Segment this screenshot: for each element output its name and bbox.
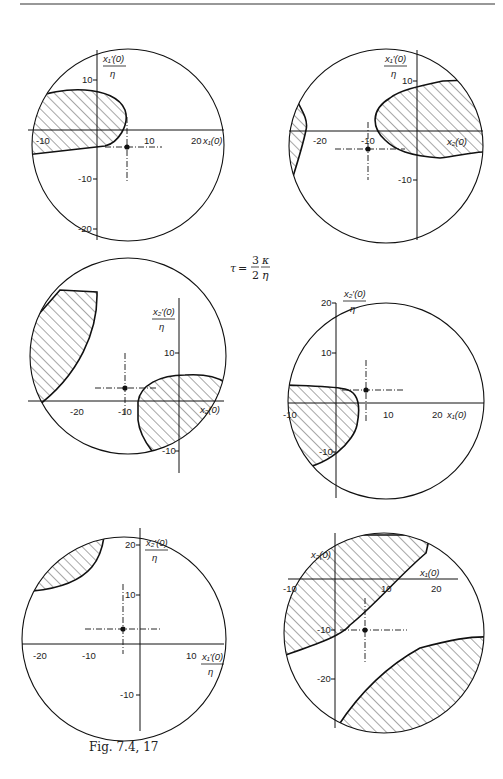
y-tick: -10 bbox=[317, 624, 331, 635]
x-tick: -10 bbox=[36, 135, 50, 146]
y-tick: -10 bbox=[120, 689, 134, 700]
y-tick: -10 bbox=[398, 174, 412, 185]
hatched-region-right bbox=[138, 375, 226, 473]
y-tick: -10 bbox=[78, 173, 92, 184]
svg-text:=: = bbox=[238, 262, 247, 275]
x-tick: -10 bbox=[283, 583, 297, 594]
svg-text:κ: κ bbox=[261, 254, 270, 267]
svg-text:η: η bbox=[159, 321, 164, 332]
y-axis-label: x₁′(0) bbox=[384, 53, 406, 64]
y-axis-label: x₂′(0) bbox=[145, 537, 168, 548]
y-tick: 20 bbox=[321, 297, 332, 308]
y-tick: 10 bbox=[321, 347, 332, 358]
svg-text:η: η bbox=[152, 552, 157, 563]
figure-canvas: -10 10 20 x₁(0) 10 -10 -20 x₁′(0) η -20 … bbox=[0, 0, 503, 779]
x-tick: -10 bbox=[82, 650, 96, 661]
y-tick: -10 bbox=[319, 446, 333, 457]
x-tick: 10 bbox=[383, 409, 394, 420]
x-tick: 20 bbox=[431, 583, 442, 594]
svg-text:η: η bbox=[350, 303, 355, 314]
panel-middle-right: -10 10 20 x₁(0) 20 10 -10 x₂′(0) η bbox=[283, 288, 484, 499]
x-tick: 20 bbox=[432, 409, 443, 420]
x-tick: -20 bbox=[33, 650, 47, 661]
y-tick: 20 bbox=[125, 539, 136, 550]
hatched-region bbox=[285, 385, 359, 470]
svg-text:η: η bbox=[110, 68, 115, 79]
y-tick: 10 bbox=[125, 589, 136, 600]
panel-top-left: -10 10 20 x₁(0) 10 -10 -20 x₁′(0) η bbox=[25, 49, 224, 241]
y-axis-label: x₁′(0) bbox=[102, 53, 124, 64]
y-tick: -20 bbox=[317, 673, 331, 684]
panel-bottom-right: -10 10 20 x₁(0) x₂(0) -10 -20 bbox=[268, 533, 490, 740]
panel-bottom-left: -20 -10 10 x₁′(0) η 20 10 -10 x₂′(0) η bbox=[20, 525, 226, 741]
svg-text:η: η bbox=[208, 666, 213, 677]
svg-text:3: 3 bbox=[252, 254, 259, 267]
hatched-region-upper bbox=[268, 535, 430, 661]
x-tick: 10 bbox=[186, 650, 197, 661]
svg-text:2: 2 bbox=[252, 269, 259, 282]
y-axis-label: x₂(0) bbox=[310, 549, 331, 560]
panel-middle-left: -20 -10 x₂(0) 10 -10 x₂′(0) η bbox=[25, 258, 226, 473]
x-axis-label: x₁′(0) bbox=[201, 651, 223, 662]
tau-parameter-label: τ = 3 2 κ η bbox=[230, 254, 270, 282]
y-tick: -20 bbox=[78, 223, 92, 234]
hatched-region-right bbox=[375, 80, 490, 158]
y-tick: 10 bbox=[164, 347, 175, 358]
y-tick: 10 bbox=[402, 75, 413, 86]
x-axis-label: x₁(0) bbox=[202, 135, 222, 146]
x-tick: 10 bbox=[144, 135, 155, 146]
y-axis-label: x₂′(0) bbox=[343, 288, 366, 299]
svg-text:η: η bbox=[391, 68, 396, 79]
x-axis-label: x₂(0) bbox=[446, 136, 467, 147]
svg-text:η: η bbox=[262, 269, 269, 282]
figure-caption: Fig. 7.4, 17 bbox=[89, 740, 158, 754]
panel-top-right: -20 -10 x₂(0) 10 -10 x₁′(0) η bbox=[270, 49, 490, 243]
x-axis-label: x₁(0) bbox=[446, 409, 466, 420]
x-axis-label: x₂(0) bbox=[199, 404, 220, 415]
x-tick: -10 bbox=[283, 409, 297, 420]
x-tick: -20 bbox=[70, 406, 84, 417]
x-tick: -20 bbox=[313, 135, 327, 146]
y-tick: -10 bbox=[162, 445, 176, 456]
x-tick: 20 bbox=[191, 135, 202, 146]
y-tick: 10 bbox=[82, 74, 93, 85]
x-tick: 10 bbox=[381, 583, 392, 594]
svg-text:τ: τ bbox=[230, 262, 237, 275]
y-axis-label: x₂′(0) bbox=[152, 306, 175, 317]
x-axis-label: x₁(0) bbox=[419, 567, 439, 578]
